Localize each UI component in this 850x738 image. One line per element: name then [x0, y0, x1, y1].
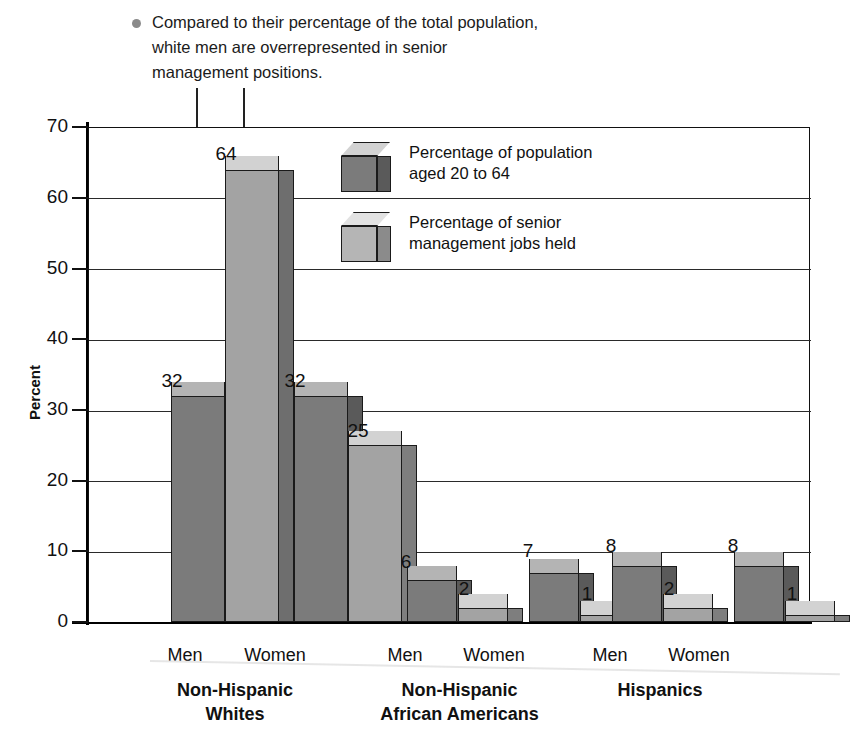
bar-side-face — [278, 170, 294, 622]
bar-value-whites-women-population: 32 — [271, 370, 319, 392]
legend-label-line2: management jobs held — [409, 233, 576, 254]
cube-front-face — [341, 226, 377, 262]
bar-whites-men-population — [171, 396, 225, 622]
bar-front-face — [785, 615, 835, 622]
x-group-label-hispanics: Hispanics — [580, 678, 740, 702]
bar-front-face — [348, 445, 402, 622]
bar-value-aa-men-population: 6 — [382, 551, 430, 573]
x-group-label-line2: African Americans — [362, 702, 557, 726]
bar-value-hisp-men-senior: 2 — [645, 578, 693, 600]
bar-hispanics-men-senior — [663, 608, 713, 622]
x-sublabel-hisp-men: Men — [575, 645, 645, 666]
cube-front-face — [341, 156, 377, 192]
bar-front-face — [171, 396, 225, 622]
bar-side-face — [834, 615, 850, 622]
gridline-60 — [89, 198, 811, 199]
bar-front-face — [225, 170, 279, 622]
y-tick-label: 30 — [22, 398, 68, 420]
gridline-50 — [89, 269, 811, 270]
bar-value-whites-women-senior: 25 — [334, 420, 382, 442]
bar-value-aa-women-senior: 1 — [563, 583, 611, 605]
y-tick-mark — [72, 480, 88, 482]
bar-side-face — [507, 608, 523, 622]
legend-label-population: Percentage of population aged 20 to 64 — [409, 142, 592, 184]
dark-cube-swatch-icon — [341, 142, 391, 192]
light-cube-swatch-icon — [341, 212, 391, 262]
y-tick-mark — [72, 621, 88, 623]
y-tick-mark — [72, 409, 88, 411]
legend-label-senior-management: Percentage of senior management jobs hel… — [409, 212, 576, 254]
x-group-label-line2: Whites — [145, 702, 325, 726]
bar-whites-women-senior — [348, 445, 402, 622]
legend-label-line1: Percentage of population — [409, 142, 592, 163]
x-sublabel-aa-women: Women — [449, 645, 539, 666]
x-group-label-line1: Hispanics — [580, 678, 740, 702]
y-tick-label: 10 — [22, 539, 68, 561]
y-tick-label: 0 — [22, 610, 68, 632]
bar-hispanics-women-senior — [785, 615, 835, 622]
y-tick-label: 20 — [22, 469, 68, 491]
bar-front-face — [663, 608, 713, 622]
figure-caption-text: Compared to their percentage of the tota… — [152, 10, 548, 85]
plot-area: Percentage of population aged 20 to 64 P… — [88, 127, 810, 622]
x-sublabel-aa-men: Men — [370, 645, 440, 666]
bar-value-whites-men-senior: 64 — [202, 143, 250, 165]
gridline-40 — [89, 340, 811, 341]
y-tick-label: 50 — [22, 257, 68, 279]
bar-value-hisp-women-senior: 1 — [768, 583, 816, 605]
x-group-label-line1: Non-Hispanic — [362, 678, 557, 702]
bar-side-face — [712, 608, 728, 622]
y-tick-mark — [72, 338, 88, 340]
cube-top-face — [341, 142, 390, 156]
y-tick-label: 70 — [22, 115, 68, 137]
x-sublabel-whites-men: Men — [150, 645, 220, 666]
legend-label-line2: aged 20 to 64 — [409, 163, 592, 184]
bar-front-face — [458, 608, 508, 622]
bar-value-hisp-women-population: 8 — [709, 535, 757, 557]
bar-value-hisp-men-population: 8 — [587, 535, 635, 557]
figure-caption: Compared to their percentage of the tota… — [128, 10, 548, 85]
bar-value-aa-men-senior: 2 — [440, 578, 488, 600]
bullet-icon — [132, 19, 141, 28]
x-sublabel-hisp-women: Women — [654, 645, 744, 666]
y-tick-mark — [72, 126, 88, 128]
y-tick-mark — [72, 550, 88, 552]
bar-value-whites-men-population: 32 — [148, 370, 196, 392]
x-group-label-african-americans: Non-Hispanic African Americans — [362, 678, 557, 726]
bar-value-aa-women-population: 7 — [504, 540, 552, 562]
x-group-label-line1: Non-Hispanic — [145, 678, 325, 702]
legend-label-line1: Percentage of senior — [409, 212, 576, 233]
cube-top-face — [341, 212, 390, 226]
cube-side-face — [377, 226, 391, 262]
y-tick-label: 40 — [22, 327, 68, 349]
x-group-label-whites: Non-Hispanic Whites — [145, 678, 325, 726]
y-tick-mark — [72, 268, 88, 270]
bar-whites-men-senior — [225, 170, 279, 622]
cube-side-face — [377, 156, 391, 192]
y-tick-label: 60 — [22, 186, 68, 208]
y-tick-mark — [72, 197, 88, 199]
bar-african-americans-men-senior — [458, 608, 508, 622]
